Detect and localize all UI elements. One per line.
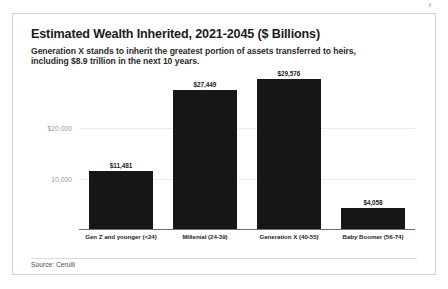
bar-value-label: $11,481 <box>79 162 163 169</box>
source-note: Source: Cerulli <box>31 261 75 268</box>
x-axis-category-label: Baby Boomer (56-74) <box>326 233 420 240</box>
bar[interactable] <box>89 171 153 229</box>
bar-slot: $29,576Generation X (40-55) <box>247 72 331 229</box>
scan-artifact-speck <box>428 3 431 7</box>
bar[interactable] <box>257 79 321 229</box>
chart-title: Estimated Wealth Inherited, 2021-2045 ($… <box>31 27 320 41</box>
bar[interactable] <box>341 208 405 229</box>
bar-value-label: $29,576 <box>247 70 331 77</box>
bar-value-label: $4,058 <box>331 199 415 206</box>
x-axis-category-label: Millenial (24-39) <box>158 233 252 240</box>
bar-value-label: $27,449 <box>163 81 247 88</box>
source-divider <box>31 258 417 259</box>
chart-subtitle: Generation X stands to inherit the great… <box>31 46 391 67</box>
chart-card-inner: Estimated Wealth Inherited, 2021-2045 ($… <box>13 14 435 274</box>
x-axis-category-label: Gen Z and younger (<24) <box>74 233 168 240</box>
x-axis-line <box>79 229 415 230</box>
chart-plot-area: 10,000$20,000 $11,481Gen Z and younger (… <box>31 72 421 244</box>
chart-axes: 10,000$20,000 $11,481Gen Z and younger (… <box>79 72 415 230</box>
bar-slot: $27,449Millenial (24-39) <box>163 72 247 229</box>
screenshot-page: Estimated Wealth Inherited, 2021-2045 ($… <box>0 0 448 289</box>
bar[interactable] <box>173 90 237 229</box>
chart-card: Estimated Wealth Inherited, 2021-2045 ($… <box>12 13 436 275</box>
bar-slot: $4,058Baby Boomer (56-74) <box>331 72 415 229</box>
bar-group: $11,481Gen Z and younger (<24)$27,449Mil… <box>79 72 415 229</box>
bar-slot: $11,481Gen Z and younger (<24) <box>79 72 163 229</box>
x-axis-category-label: Generation X (40-55) <box>242 233 336 240</box>
y-axis-tick-label: $20,000 <box>47 125 72 132</box>
y-axis-tick-label: 10,000 <box>51 176 72 183</box>
